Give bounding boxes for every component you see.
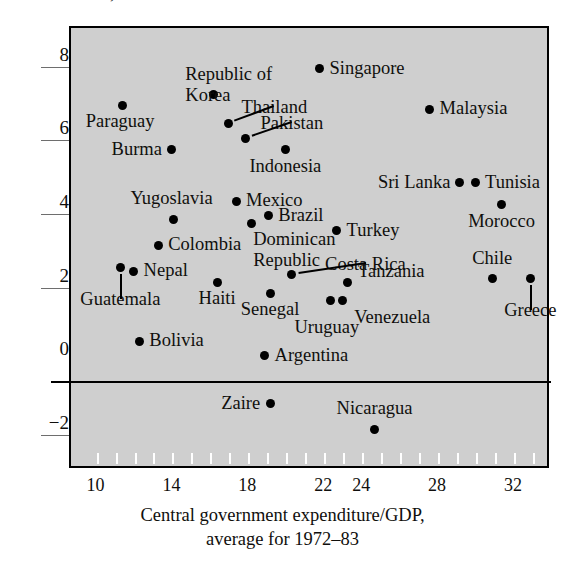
data-point — [497, 200, 506, 209]
zero-reference-line — [51, 381, 551, 383]
x-tick-mark — [419, 453, 421, 464]
data-point — [213, 278, 222, 287]
data-point-label: Tanzania — [358, 261, 425, 282]
data-point — [315, 64, 324, 73]
x-tick-mark — [153, 453, 155, 464]
data-point-label: Argentina — [275, 345, 349, 366]
data-point — [455, 178, 464, 187]
data-point — [154, 241, 163, 250]
y-tick-label: −2 — [37, 413, 69, 432]
x-tick-mark — [116, 453, 118, 464]
data-point — [266, 399, 275, 408]
x-tick-mark — [267, 453, 269, 464]
scatter-plot-figure: Growth of GDP, 1972-83 86420−2 Republic … — [0, 0, 565, 571]
data-point-label: Brazil — [278, 205, 323, 226]
x-tick-mark — [135, 453, 137, 464]
data-point-label: Uruguay — [294, 317, 359, 338]
x-tick-label: 24 — [352, 476, 370, 494]
data-point-label: Tunisia — [485, 172, 540, 193]
x-axis-title-line-2: average for 1972–83 — [0, 527, 565, 551]
plot-area: Republic of KoreaSingaporeParaguayMalays… — [69, 26, 549, 468]
y-tick-label: 4 — [37, 192, 69, 211]
y-tick-label: 2 — [37, 266, 69, 285]
data-point-label: Venezuela — [354, 307, 430, 328]
data-point — [488, 274, 497, 283]
x-tick-mark — [191, 453, 193, 464]
x-tick-label: 10 — [87, 476, 105, 494]
data-point-label: Paraguay — [86, 111, 155, 132]
data-point-label: Morocco — [468, 211, 535, 232]
data-point — [116, 263, 125, 272]
x-tick-mark — [210, 453, 212, 464]
x-tick-mark — [248, 453, 250, 464]
x-tick-mark — [324, 453, 326, 464]
data-point-label: Bolivia — [149, 330, 203, 351]
y-tick-label: 0 — [37, 339, 69, 358]
data-point-label: Senegal — [241, 299, 300, 320]
x-tick-mark — [343, 453, 345, 464]
data-point-label: Indonesia — [249, 156, 321, 177]
data-point-label: Yugoslavia — [130, 188, 212, 209]
x-axis-title-line-1: Central government expenditure/GDP, — [0, 503, 565, 527]
x-tick-mark — [305, 453, 307, 464]
x-tick-mark — [172, 453, 174, 464]
data-point-label: Haiti — [199, 288, 236, 309]
x-tick-mark — [286, 453, 288, 464]
data-point — [247, 219, 256, 228]
data-point — [167, 145, 176, 154]
x-tick-mark — [362, 453, 364, 464]
data-point-label: Chile — [472, 248, 512, 269]
x-tick-label: 28 — [428, 476, 446, 494]
x-tick-mark — [533, 453, 535, 464]
data-point-label: Nicaragua — [337, 398, 413, 419]
data-point — [338, 296, 347, 305]
data-point — [370, 425, 379, 434]
x-tick-label: 14 — [162, 476, 180, 494]
x-tick-mark — [476, 453, 478, 464]
data-point-label: Singapore — [330, 58, 405, 79]
data-point-label: Malaysia — [440, 98, 508, 119]
x-tick-mark — [457, 453, 459, 464]
x-tick-label: 32 — [504, 476, 522, 494]
x-tick-mark — [514, 453, 516, 464]
x-tick-mark — [229, 453, 231, 464]
x-tick-mark — [400, 453, 402, 464]
data-point — [287, 270, 296, 279]
data-point-label: Burma — [112, 139, 162, 160]
data-point — [526, 274, 535, 283]
x-axis-title: Central government expenditure/GDP, aver… — [0, 503, 565, 551]
data-point — [169, 215, 178, 224]
y-tick-label: 8 — [37, 45, 69, 64]
data-point-label: Nepal — [144, 260, 188, 281]
data-point — [129, 267, 138, 276]
x-tick-mark — [438, 453, 440, 464]
x-tick-mark — [381, 453, 383, 464]
x-tick-mark — [495, 453, 497, 464]
data-point-label: Turkey — [347, 220, 400, 241]
data-point — [326, 296, 335, 305]
y-tick-label: 6 — [37, 118, 69, 137]
label-leader-line — [530, 285, 532, 310]
data-point — [471, 178, 480, 187]
data-point-label: Colombia — [168, 234, 241, 255]
data-point-label: Zaire — [221, 393, 260, 414]
x-tick-label: 22 — [314, 476, 332, 494]
data-point — [281, 145, 290, 154]
data-point — [260, 351, 269, 360]
data-point — [264, 211, 273, 220]
x-tick-mark — [97, 453, 99, 464]
data-point — [135, 337, 144, 346]
y-axis: 86420−2 — [0, 0, 69, 500]
data-point — [266, 289, 275, 298]
data-point — [425, 105, 434, 114]
x-tick-label: 18 — [238, 476, 256, 494]
data-point — [118, 101, 127, 110]
data-point-label: Sri Lanka — [378, 172, 450, 193]
data-point — [224, 119, 233, 128]
data-point — [241, 134, 250, 143]
data-point — [343, 278, 352, 287]
data-point — [232, 197, 241, 206]
